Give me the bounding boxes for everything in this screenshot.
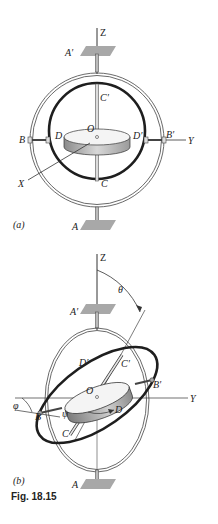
label-c: C xyxy=(101,178,108,189)
label-d: D xyxy=(54,130,63,141)
label-psi: ψ xyxy=(62,408,69,419)
label-y: Y xyxy=(188,135,195,146)
label-b-prime: B′ xyxy=(166,129,175,140)
label-o-b: O xyxy=(86,385,93,396)
figure-caption: Fig. 18.15 xyxy=(11,491,57,502)
label-b: B xyxy=(19,134,25,145)
label-a-prime-b: A′ xyxy=(69,306,79,317)
label-d-prime: D′ xyxy=(132,130,143,141)
label-a-b: A xyxy=(71,479,79,490)
panel-b: Z θ A′ D′ C′ B′ O Y φ B ψ D C (b) A xyxy=(13,252,197,490)
label-o: O xyxy=(87,123,94,134)
panel-a: Z A′ C′ O D D′ B B′ Y X C (a) A xyxy=(13,27,195,232)
label-b-prime-b: B′ xyxy=(153,379,162,390)
label-a-prime: A′ xyxy=(64,47,74,58)
bearing-plate-a-b xyxy=(80,479,116,489)
label-theta: θ xyxy=(118,284,123,295)
bearing-plate-a xyxy=(80,220,116,230)
label-phi: φ xyxy=(13,400,19,411)
label-b-b: B xyxy=(35,411,41,422)
panel-b-tag: (b) xyxy=(13,475,25,487)
x-axis-a xyxy=(28,143,90,180)
label-d-prime-b: D′ xyxy=(78,357,89,368)
phi-arc xyxy=(22,398,32,412)
label-c-prime: C′ xyxy=(100,92,110,103)
label-d-b: D xyxy=(114,404,123,415)
label-x: X xyxy=(17,178,25,189)
label-z-b: Z xyxy=(100,252,106,263)
label-a: A xyxy=(71,221,79,232)
label-z: Z xyxy=(100,27,106,38)
label-c-b: C xyxy=(62,428,69,439)
panel-a-tag: (a) xyxy=(13,219,25,231)
rotor-disk-b xyxy=(61,376,136,429)
label-c-prime-b: C′ xyxy=(121,358,131,369)
label-y-b: Y xyxy=(190,393,197,404)
gyroscope-figure: Z A′ C′ O D D′ B B′ Y X C (a) A xyxy=(0,0,218,524)
